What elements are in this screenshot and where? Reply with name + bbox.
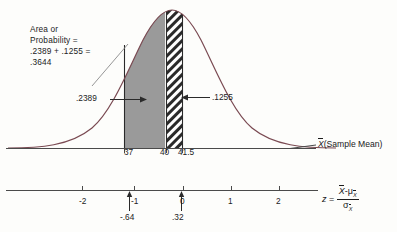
left-area-label: .2389 — [76, 93, 97, 104]
z-tick-label-0: 0 — [180, 196, 185, 207]
x-axis-title: X(Sample Mean) — [318, 139, 382, 150]
z-tick-label-2: 2 — [276, 196, 281, 207]
leader-right-area — [181, 95, 210, 101]
z-tick-label-1: 1 — [228, 196, 233, 207]
callout-text-block: Area or Probability = .2389 + .1255 = .3… — [30, 24, 90, 68]
callout-line-4: .3644 — [30, 57, 90, 68]
z-formula-numerator: X-μX — [337, 186, 359, 200]
x-tick-label-37: 37 — [124, 147, 133, 158]
x-tick-label-40: 40 — [160, 147, 169, 158]
callout-line-1: Area or — [30, 24, 90, 35]
x-tick-label-41-5: 41.5 — [178, 147, 194, 158]
z-formula-fraction: X-μX σX — [337, 186, 359, 213]
z-formula-equals: = — [329, 194, 334, 204]
z-formula-denominator: σX — [337, 200, 359, 213]
callout-line-3: .2389 + .1255 = — [30, 46, 90, 57]
numerator-mu-subscript: X — [353, 192, 357, 199]
z-formula-lhs: z — [322, 194, 327, 204]
z-formula: z = X-μX σX — [322, 186, 359, 213]
x-bar-symbol: X — [318, 139, 324, 150]
x-axis-title-text: (Sample Mean) — [324, 139, 383, 149]
figure-canvas: Area or Probability = .2389 + .1255 = .3… — [0, 0, 397, 232]
z-value-label-032: .32 — [172, 212, 184, 223]
callout-line-2: Probability = — [30, 35, 90, 46]
z-tick-label-minus-1: -1 — [131, 196, 138, 207]
denominator-sigma-subscript: X — [349, 206, 353, 213]
callout-leader-line — [92, 44, 128, 86]
z-value-label-minus-064: -.64 — [120, 212, 134, 223]
numerator-x-bar: X — [339, 186, 345, 198]
right-area-label: .1255 — [212, 92, 233, 103]
z-tick-label-minus-2: -2 — [79, 196, 86, 207]
